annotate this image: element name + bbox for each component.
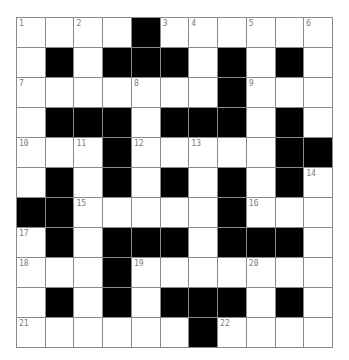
answer-cell[interactable] bbox=[247, 138, 276, 168]
answer-cell[interactable] bbox=[103, 18, 132, 48]
answer-cell[interactable]: 18 bbox=[17, 258, 46, 288]
answer-cell[interactable] bbox=[276, 258, 305, 288]
crossword-grid: 12345678910111213141516171819202122 bbox=[16, 17, 333, 348]
answer-cell[interactable] bbox=[74, 48, 103, 78]
clue-number: 2 bbox=[76, 20, 81, 28]
answer-cell[interactable] bbox=[189, 78, 218, 108]
answer-cell[interactable]: 17 bbox=[17, 228, 46, 258]
answer-cell[interactable] bbox=[276, 198, 305, 228]
answer-cell[interactable] bbox=[189, 168, 218, 198]
answer-cell[interactable]: 13 bbox=[189, 138, 218, 168]
answer-cell[interactable]: 11 bbox=[74, 138, 103, 168]
answer-cell[interactable]: 9 bbox=[247, 78, 276, 108]
answer-cell[interactable] bbox=[304, 48, 333, 78]
block-cell bbox=[103, 288, 132, 318]
answer-cell[interactable] bbox=[304, 78, 333, 108]
answer-cell[interactable] bbox=[247, 318, 276, 348]
answer-cell[interactable]: 21 bbox=[17, 318, 46, 348]
block-cell bbox=[276, 108, 305, 138]
answer-cell[interactable]: 5 bbox=[247, 18, 276, 48]
answer-cell[interactable] bbox=[132, 108, 161, 138]
answer-cell[interactable] bbox=[276, 318, 305, 348]
answer-cell[interactable] bbox=[46, 78, 75, 108]
answer-cell[interactable] bbox=[132, 288, 161, 318]
answer-cell[interactable] bbox=[74, 78, 103, 108]
answer-cell[interactable] bbox=[132, 198, 161, 228]
answer-cell[interactable] bbox=[74, 168, 103, 198]
answer-cell[interactable] bbox=[103, 78, 132, 108]
clue-number: 5 bbox=[249, 20, 254, 28]
answer-cell[interactable] bbox=[304, 198, 333, 228]
answer-cell[interactable]: 2 bbox=[74, 18, 103, 48]
answer-cell[interactable] bbox=[161, 198, 190, 228]
answer-cell[interactable]: 3 bbox=[161, 18, 190, 48]
block-cell bbox=[189, 288, 218, 318]
answer-cell[interactable] bbox=[189, 48, 218, 78]
answer-cell[interactable]: 16 bbox=[247, 198, 276, 228]
answer-cell[interactable] bbox=[17, 108, 46, 138]
answer-cell[interactable] bbox=[161, 318, 190, 348]
answer-cell[interactable]: 1 bbox=[17, 18, 46, 48]
answer-cell[interactable] bbox=[17, 288, 46, 318]
block-cell bbox=[46, 48, 75, 78]
answer-cell[interactable]: 8 bbox=[132, 78, 161, 108]
clue-number: 9 bbox=[249, 80, 254, 88]
block-cell bbox=[161, 48, 190, 78]
answer-cell[interactable]: 22 bbox=[218, 318, 247, 348]
block-cell bbox=[103, 258, 132, 288]
answer-cell[interactable] bbox=[46, 138, 75, 168]
answer-cell[interactable] bbox=[132, 168, 161, 198]
answer-cell[interactable] bbox=[276, 78, 305, 108]
answer-cell[interactable]: 15 bbox=[74, 198, 103, 228]
block-cell bbox=[189, 318, 218, 348]
clue-number: 16 bbox=[249, 200, 259, 208]
answer-cell[interactable] bbox=[132, 318, 161, 348]
answer-cell[interactable] bbox=[218, 138, 247, 168]
answer-cell[interactable] bbox=[218, 18, 247, 48]
block-cell bbox=[46, 228, 75, 258]
answer-cell[interactable] bbox=[161, 78, 190, 108]
answer-cell[interactable] bbox=[103, 198, 132, 228]
answer-cell[interactable] bbox=[247, 108, 276, 138]
block-cell bbox=[103, 168, 132, 198]
answer-cell[interactable] bbox=[74, 318, 103, 348]
block-cell bbox=[276, 48, 305, 78]
block-cell bbox=[276, 138, 305, 168]
answer-cell[interactable] bbox=[74, 288, 103, 318]
answer-cell[interactable] bbox=[304, 258, 333, 288]
clue-number: 15 bbox=[76, 200, 86, 208]
answer-cell[interactable] bbox=[276, 18, 305, 48]
answer-cell[interactable]: 7 bbox=[17, 78, 46, 108]
block-cell bbox=[17, 198, 46, 228]
answer-cell[interactable] bbox=[103, 318, 132, 348]
answer-cell[interactable] bbox=[304, 318, 333, 348]
answer-cell[interactable] bbox=[189, 198, 218, 228]
answer-cell[interactable] bbox=[46, 18, 75, 48]
answer-cell[interactable] bbox=[74, 228, 103, 258]
answer-cell[interactable] bbox=[247, 168, 276, 198]
answer-cell[interactable] bbox=[304, 228, 333, 258]
answer-cell[interactable] bbox=[304, 288, 333, 318]
answer-cell[interactable]: 12 bbox=[132, 138, 161, 168]
answer-cell[interactable]: 14 bbox=[304, 168, 333, 198]
answer-cell[interactable] bbox=[17, 168, 46, 198]
answer-cell[interactable] bbox=[218, 258, 247, 288]
answer-cell[interactable] bbox=[247, 48, 276, 78]
answer-cell[interactable] bbox=[304, 108, 333, 138]
answer-cell[interactable] bbox=[189, 228, 218, 258]
answer-cell[interactable] bbox=[17, 48, 46, 78]
block-cell bbox=[46, 198, 75, 228]
answer-cell[interactable] bbox=[46, 318, 75, 348]
answer-cell[interactable] bbox=[74, 258, 103, 288]
answer-cell[interactable]: 4 bbox=[189, 18, 218, 48]
answer-cell[interactable]: 20 bbox=[247, 258, 276, 288]
answer-cell[interactable] bbox=[247, 288, 276, 318]
answer-cell[interactable] bbox=[46, 258, 75, 288]
block-cell bbox=[132, 18, 161, 48]
answer-cell[interactable] bbox=[189, 258, 218, 288]
answer-cell[interactable] bbox=[161, 138, 190, 168]
answer-cell[interactable]: 19 bbox=[132, 258, 161, 288]
answer-cell[interactable] bbox=[161, 258, 190, 288]
answer-cell[interactable]: 6 bbox=[304, 18, 333, 48]
answer-cell[interactable]: 10 bbox=[17, 138, 46, 168]
